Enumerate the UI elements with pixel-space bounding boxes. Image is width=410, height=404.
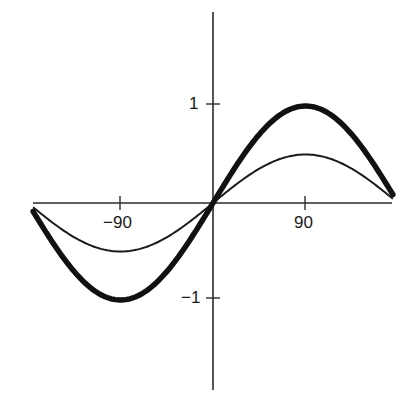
y-tick-label-neg1: −1 xyxy=(181,289,200,306)
sine-chart xyxy=(0,0,410,404)
x-tick-label-neg90: −90 xyxy=(103,214,132,231)
x-tick-label-pos90: 90 xyxy=(294,214,313,231)
y-tick-label-pos1: 1 xyxy=(189,95,198,112)
